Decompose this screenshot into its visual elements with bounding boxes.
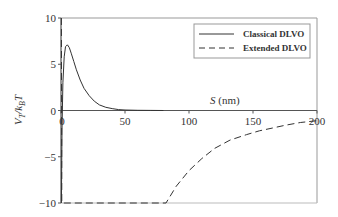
legend: Classical DLVO Extended DLVO xyxy=(194,24,310,58)
legend-label-classical: Classical DLVO xyxy=(243,29,304,39)
y-title-t: T xyxy=(12,94,24,101)
x-tick-label: 100 xyxy=(181,115,198,127)
x-axis-ticks: 050100150200 xyxy=(59,111,326,127)
legend-label-extended: Extended DLVO xyxy=(243,43,307,53)
x-axis-title: S (nm) xyxy=(210,94,240,107)
y-tick-label: −10 xyxy=(39,197,57,209)
y-tick-label: 5 xyxy=(51,58,57,70)
y-tick-label: 0 xyxy=(51,105,57,117)
x-axis-unit: (nm) xyxy=(216,94,240,107)
y-axis-title: VT/kBT xyxy=(12,94,27,125)
y-tick-label: 10 xyxy=(45,12,57,24)
x-tick-label: 200 xyxy=(309,115,326,127)
y-axis-ticks: −10−50510 xyxy=(39,12,61,209)
x-tick-label: 50 xyxy=(120,115,132,127)
x-tick-label: 150 xyxy=(245,115,262,127)
chart: 050100150200 −10−50510 S (nm) VT/kBT Cla… xyxy=(0,0,338,217)
y-tick-label: −5 xyxy=(44,151,56,163)
series-line-classical-dlvo xyxy=(61,45,163,203)
